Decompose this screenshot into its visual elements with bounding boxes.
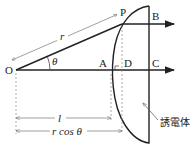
label-theta: θ — [52, 55, 58, 67]
dielectric-refraction-diagram: O P B A D C r θ l r cos θ 誘電体 — [0, 0, 194, 153]
label-l: l — [58, 112, 61, 124]
label-dielectric: 誘電体 — [160, 116, 190, 128]
label-r-cos-theta: r cos θ — [52, 125, 82, 137]
r-dimension-left — [12, 41, 57, 61]
label-P: P — [120, 6, 126, 18]
label-B: B — [152, 10, 159, 22]
label-A: A — [99, 57, 107, 69]
theta-arc — [48, 57, 51, 70]
r-dimension-right — [68, 15, 117, 37]
label-r: r — [60, 30, 65, 42]
label-C: C — [152, 57, 159, 69]
dielectric-outline — [112, 6, 149, 143]
dielectric-pointer — [143, 103, 158, 120]
label-D: D — [124, 57, 132, 69]
label-O: O — [5, 64, 13, 76]
